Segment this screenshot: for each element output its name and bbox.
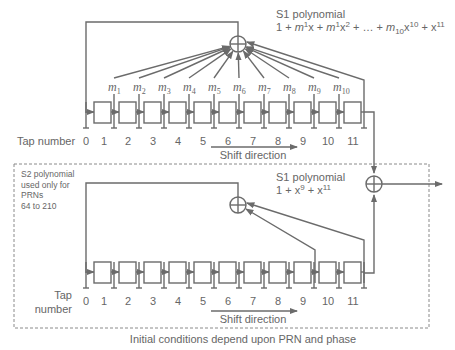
multiplier-subscript: 6 <box>242 87 246 96</box>
multiplier-label: m8 <box>283 80 296 96</box>
bottom-tap-number: 3 <box>150 295 156 307</box>
bottom-register-cell <box>94 262 111 283</box>
bottom-register-cell <box>194 262 211 283</box>
multiplier-feedback-line <box>139 47 229 78</box>
top-register-cell <box>344 102 361 123</box>
multiplier-label: m5 <box>208 80 221 96</box>
formula-sup: 11 <box>437 20 446 29</box>
formula-sup: 11 <box>323 183 332 192</box>
bottom-tap-number: 9 <box>300 295 306 307</box>
top-register-cell <box>219 102 236 123</box>
multiplier-subscript: 3 <box>167 87 171 96</box>
top-register-cell <box>244 102 261 123</box>
top-register-cell <box>194 102 211 123</box>
bottom-xor-icon <box>230 197 246 213</box>
top-register-cell <box>319 102 336 123</box>
multiplier-subscript: 5 <box>217 87 221 96</box>
top-register-cell <box>119 102 136 123</box>
top-tap-number: 9 <box>300 135 306 147</box>
bottom-tap-number: 5 <box>200 295 206 307</box>
bottom-tap-number: 4 <box>175 295 181 307</box>
top-feedback-line <box>86 22 238 113</box>
top-tap-number: 6 <box>225 135 231 147</box>
top-shift-register: m1m2m3m4m5m6m7m8m9m10 <box>83 42 367 128</box>
top-register-cell <box>144 102 161 123</box>
bottom-tap-number: 7 <box>250 295 256 307</box>
bottom-tap-number: 0 <box>83 295 89 307</box>
top-tap-number-label: Tap number <box>17 135 75 147</box>
top-register-cell <box>94 102 111 123</box>
bottom-shift-label: Shift direction <box>220 313 287 325</box>
bottom-register-cell <box>119 262 136 283</box>
formula-var: m <box>386 21 395 33</box>
formula-txt: + … + <box>350 21 386 33</box>
top-tap-number: 10 <box>322 135 334 147</box>
multiplier-label: m3 <box>158 80 171 96</box>
top-xor-icon <box>230 36 246 52</box>
bottom-feedback-line <box>86 183 238 273</box>
multiplier-subscript: 2 <box>142 87 146 96</box>
bottom-polynomial-title: S1 polynomial <box>276 171 345 183</box>
lfsr-diagram: m1m2m3m4m5m6m7m8m9m10 S1 polynomial 1 + … <box>0 0 455 350</box>
multiplier-label: m2 <box>133 80 146 96</box>
bottom-output-line <box>364 195 374 273</box>
top-register-cell <box>169 102 186 123</box>
top-tap-number: 2 <box>125 135 131 147</box>
bottom-tap-label-line1: Tap <box>54 289 72 301</box>
formula-txt: 1 + <box>276 21 295 33</box>
multiplier-label: m7 <box>258 80 271 96</box>
multiplier-subscript: 9 <box>317 87 321 96</box>
bottom-shift-register <box>83 262 367 288</box>
top-tap-number: 1 <box>101 135 107 147</box>
top-tap-number: 5 <box>200 135 206 147</box>
bottom-register-cell <box>244 262 261 283</box>
bottom-tap-number: 1 <box>101 295 107 307</box>
bottom-register-cell <box>319 262 336 283</box>
top-tap-number: 8 <box>275 135 281 147</box>
multiplier-label: m4 <box>183 80 196 96</box>
top-shift-label: Shift direction <box>220 149 287 161</box>
top-tap-number: 3 <box>150 135 156 147</box>
bottom-tap-number: 2 <box>125 295 131 307</box>
multiplier-label: m9 <box>308 80 321 96</box>
s2-note-line: S2 polynomial <box>21 169 75 179</box>
formula-txt: + x <box>305 184 324 196</box>
formula-txt: + x <box>418 21 437 33</box>
multiplier-label: m6 <box>233 80 246 96</box>
top-tap-number: 11 <box>347 135 358 147</box>
s2-note-line: 64 to 210 <box>21 201 57 211</box>
bottom-polynomial-formula: 1 + x9 + x11 <box>276 183 332 196</box>
caption: Initial conditions depend upon PRN and p… <box>130 333 356 345</box>
formula-txt: x + <box>308 21 326 33</box>
top-polynomial-formula: 1 + m1x + m1x2 + … + m10x10 + x11 <box>276 20 445 36</box>
bottom-tap-number: 10 <box>322 295 334 307</box>
multiplier-label: m1 <box>108 80 121 96</box>
bottom-tap-label-line2: number <box>35 303 73 315</box>
multiplier-subscript: 8 <box>292 87 296 96</box>
bottom-register-cell <box>294 262 311 283</box>
formula-var: m <box>326 21 335 33</box>
output-xor-icon <box>366 176 382 192</box>
formula-var: m <box>295 21 304 33</box>
top-tap-number: 4 <box>175 135 181 147</box>
top-register-cell <box>269 102 286 123</box>
top-tap-number: 7 <box>250 135 256 147</box>
top-register-cell <box>294 102 311 123</box>
bottom-register-cell <box>144 262 161 283</box>
top-polynomial-title: S1 polynomial <box>276 8 345 20</box>
bottom-tap-number: 8 <box>275 295 281 307</box>
s2-note-line: used only for <box>21 180 70 190</box>
bottom-tap-number: 6 <box>225 295 231 307</box>
multiplier-label: m10 <box>333 80 350 96</box>
multiplier-subscript: 1 <box>117 87 121 96</box>
multiplier-subscript: 10 <box>342 87 350 96</box>
s2-note-line: PRNs <box>21 190 43 200</box>
bottom-register-cell <box>344 262 361 283</box>
bottom-register-cell <box>269 262 286 283</box>
top-tap-number: 0 <box>83 135 89 147</box>
bottom-tap-number: 11 <box>347 295 358 307</box>
multiplier-subscript: 4 <box>192 87 196 96</box>
multiplier-feedback-line <box>214 51 233 78</box>
bottom-register-cell <box>219 262 236 283</box>
multiplier-feedback-line <box>238 53 239 78</box>
